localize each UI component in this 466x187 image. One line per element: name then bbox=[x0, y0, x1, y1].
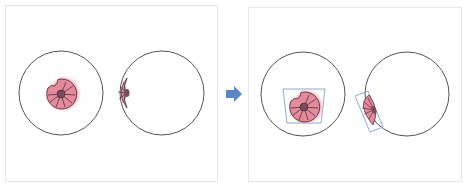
diagram-graphics bbox=[0, 0, 466, 187]
arrow-right-icon bbox=[226, 86, 242, 102]
panel-after-content bbox=[261, 52, 449, 136]
shell-icon-full-before bbox=[47, 78, 79, 110]
circle-left-b bbox=[120, 51, 204, 135]
shell-icon-half-after bbox=[362, 95, 378, 125]
shell-icon-full-after bbox=[290, 91, 322, 123]
circle-right-b bbox=[365, 52, 449, 136]
panel-before-content bbox=[19, 51, 204, 135]
diagram-stage bbox=[0, 0, 466, 187]
